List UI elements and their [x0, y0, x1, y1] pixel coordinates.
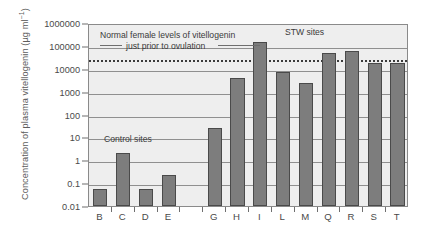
x-axis-tick-label-R: R [347, 211, 354, 222]
gridline [89, 71, 407, 72]
x-axis-tick-label-G: G [210, 211, 217, 222]
x-axis-tick-label-B: B [96, 211, 102, 222]
x-axis-tick-mark [248, 207, 249, 212]
y-axis-tick-label: 100 [65, 111, 80, 121]
x-axis-tick-mark [271, 207, 272, 212]
x-axis-tick-label-I: I [258, 211, 261, 222]
y-axis-tick-label: 1000 [60, 88, 80, 98]
bar-L [276, 72, 290, 206]
x-axis-tick-mark [317, 207, 318, 212]
annotation-control-sites: Control sites [104, 134, 152, 144]
gridline [89, 162, 407, 163]
x-axis-tick-mark [157, 207, 158, 212]
y-axis-tick-label: 10 [70, 133, 80, 143]
x-axis-tick-label-D: D [142, 211, 149, 222]
x-axis-tick-label-M: M [301, 211, 309, 222]
x-axis-tick-label-C: C [119, 211, 126, 222]
x-axis-tick-label-S: S [371, 211, 377, 222]
bar-Q [322, 53, 336, 206]
gridline [89, 185, 407, 186]
annotation-leader-left [100, 45, 122, 46]
x-axis-tick-mark [202, 207, 203, 212]
plot-area [88, 24, 408, 207]
annotation-leader-right [218, 45, 260, 46]
bar-S [368, 63, 382, 206]
x-axis-tick-mark [225, 207, 226, 212]
bar-D [139, 189, 153, 206]
gridline [89, 94, 407, 95]
bar-E [162, 175, 176, 206]
y-axis-tick-label: 1000000 [44, 19, 80, 29]
x-axis-tick-label-Q: Q [324, 211, 331, 222]
y-axis-tick-label: 10000 [54, 65, 80, 75]
bar-I [253, 42, 267, 206]
gridline [89, 117, 407, 118]
annotation-normal-female-line2: just prior to ovulation [126, 41, 205, 51]
x-axis-tick-mark [111, 207, 112, 212]
x-axis-tick-label-T: T [394, 211, 400, 222]
bar-B [93, 189, 107, 206]
annotation-normal-female-line1: Normal female levels of vitellogenin [100, 30, 235, 40]
x-axis-tick-label-L: L [280, 211, 285, 222]
y-axis-tick-label: 0.01 [62, 202, 80, 212]
bar-H [230, 78, 244, 206]
y-axis-ticks: 10000001000001000010001001010.10.01 [0, 0, 84, 241]
chart-figure: Concentration of plasma vitellogenin (µg… [0, 0, 436, 241]
bar-T [390, 63, 404, 206]
y-axis-tick-label: 0.1 [67, 179, 80, 189]
x-axis-tick-label-E: E [165, 211, 171, 222]
y-axis-tick-label: 100000 [49, 42, 80, 52]
x-axis-tick-mark [385, 207, 386, 212]
x-axis-tick-mark [179, 207, 180, 212]
bar-G [208, 128, 222, 206]
x-axis-tick-mark [134, 207, 135, 212]
x-axis-tick-mark [294, 207, 295, 212]
bar-M [299, 83, 313, 206]
bar-C [116, 153, 130, 206]
x-axis-tick-mark [339, 207, 340, 212]
y-axis-tick-label: 1 [75, 156, 80, 166]
reference-line-ovulation [89, 60, 407, 62]
bar-R [345, 51, 359, 206]
annotation-stw-sites: STW sites [285, 27, 324, 37]
x-axis-tick-label-H: H [233, 211, 240, 222]
x-axis-tick-mark [362, 207, 363, 212]
